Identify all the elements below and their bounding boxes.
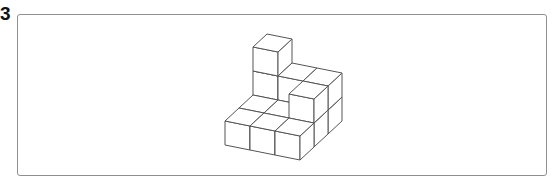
cube-stack-figure	[0, 0, 558, 189]
